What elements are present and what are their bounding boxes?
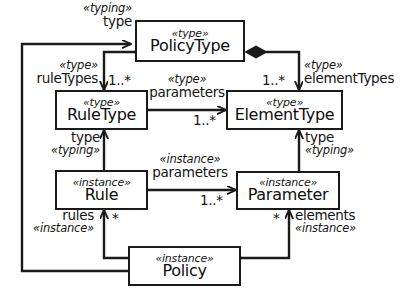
edge-label-policy-typing-role: type (34, 15, 132, 29)
multiplicity-elements: * (273, 210, 279, 226)
uml-class-diagram: typing arrow up-left rail into PolicyTyp… (0, 0, 412, 298)
edge-label-ruletypes-role: ruleTypes (10, 72, 98, 86)
node-parameter[interactable]: «instance» Parameter (236, 171, 340, 210)
multiplicity-elementtypes: 1..* (262, 72, 285, 88)
multiplicity-rules: * (112, 210, 118, 226)
multiplicity-type-parameters: 1..* (193, 112, 216, 128)
edge-label-parameter-typing-stereotype: «typing» (305, 145, 397, 157)
node-elementtype-name: ElementType (235, 107, 335, 123)
node-rule-name: Rule (85, 187, 119, 203)
edge-label-rules-stereotype: «instance» (6, 223, 94, 235)
node-policy-name: Policy (162, 263, 206, 279)
edge-label-instance-parameters-role: parameters (143, 166, 237, 180)
node-rule[interactable]: «instance» Rule (55, 170, 148, 210)
edge-label-elements-stereotype: «instance» (295, 223, 395, 235)
node-ruletype[interactable]: «type» RuleType (55, 90, 148, 130)
edge-label-elementtypes: «type» elementTypes (304, 60, 408, 85)
edge-label-rule-typing-stereotype: «typing» (12, 145, 100, 157)
edge-label-type-parameters-role: parameters (148, 86, 226, 100)
node-elementtype[interactable]: «type» ElementType (226, 90, 343, 130)
edge-label-ruletypes: «type» ruleTypes (10, 60, 98, 85)
edge-label-parameter-typing: type «typing» (305, 131, 397, 156)
edge-label-rules: rules «instance» (6, 209, 94, 234)
multiplicity-instance-parameters: 1..* (200, 192, 223, 208)
composition-diamond-policytype-elementtypes (246, 47, 266, 58)
node-policy[interactable]: «instance» Policy (128, 246, 241, 286)
node-policytype[interactable]: «type» PolicyType (135, 20, 245, 62)
edge-label-elements: elements «instance» (295, 209, 395, 234)
edge-label-type-parameters: «type» parameters (148, 74, 226, 99)
node-parameter-name: Parameter (248, 187, 329, 203)
node-policytype-name: PolicyType (150, 38, 230, 54)
multiplicity-ruletypes: 1..* (108, 72, 131, 88)
edge-label-elementtypes-role: elementTypes (304, 72, 408, 86)
edge-label-policy-typing: «typing» type (34, 3, 132, 28)
node-ruletype-name: RuleType (67, 107, 136, 123)
edge-label-instance-parameters: «instance» parameters (143, 154, 237, 179)
edge-label-rule-typing: type «typing» (12, 131, 100, 156)
